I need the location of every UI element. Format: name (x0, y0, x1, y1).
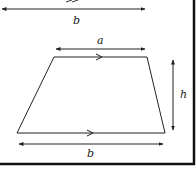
trapezium-shape (17, 54, 165, 136)
trapezium-diagram: b a h b (0, 0, 196, 170)
height-label: h (180, 88, 187, 101)
parallel-mark-icon (66, 0, 78, 2)
bottom-side-label: b (87, 147, 94, 160)
upper-fragment: b (2, 0, 145, 27)
bottom-dimension: b (19, 144, 163, 160)
upper-base-label: b (73, 14, 80, 27)
top-dimension: a (56, 34, 145, 49)
height-dimension: h (173, 60, 187, 130)
frame-border (0, 0, 195, 165)
top-side-label: a (97, 34, 104, 47)
